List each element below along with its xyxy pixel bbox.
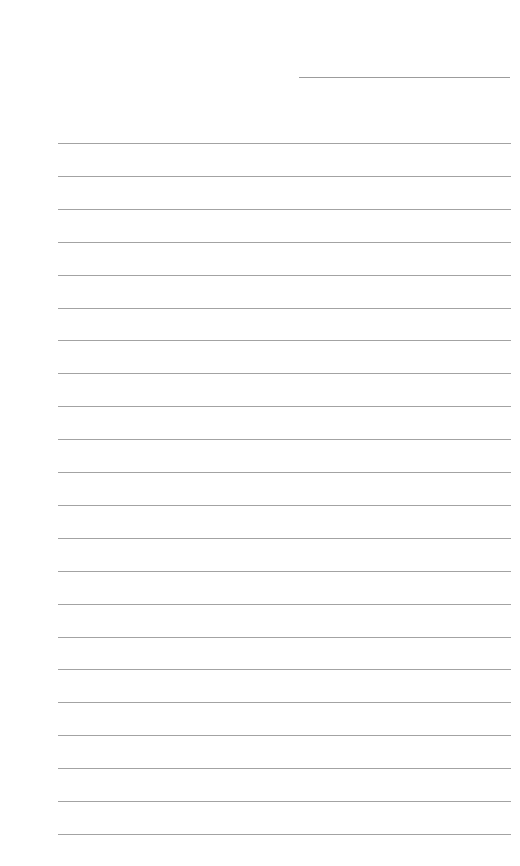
ruled-line [58, 275, 511, 276]
ruled-line [58, 538, 511, 539]
header-name-line [299, 77, 510, 78]
ruled-line [58, 604, 511, 605]
ruled-line [58, 176, 511, 177]
ruled-line [58, 768, 511, 769]
ruled-line [58, 472, 511, 473]
ruled-line [58, 373, 511, 374]
ruled-line [58, 637, 511, 638]
ruled-line [58, 505, 511, 506]
ruled-line [58, 571, 511, 572]
ruled-line [58, 406, 511, 407]
ruled-line [58, 669, 511, 670]
lined-page [0, 0, 520, 866]
ruled-line [58, 209, 511, 210]
ruled-line [58, 308, 511, 309]
ruled-line [58, 143, 511, 144]
ruled-line [58, 801, 511, 802]
ruled-line [58, 439, 511, 440]
ruled-line [58, 340, 511, 341]
ruled-line [58, 834, 511, 835]
ruled-line [58, 702, 511, 703]
ruled-line [58, 242, 511, 243]
ruled-line [58, 735, 511, 736]
